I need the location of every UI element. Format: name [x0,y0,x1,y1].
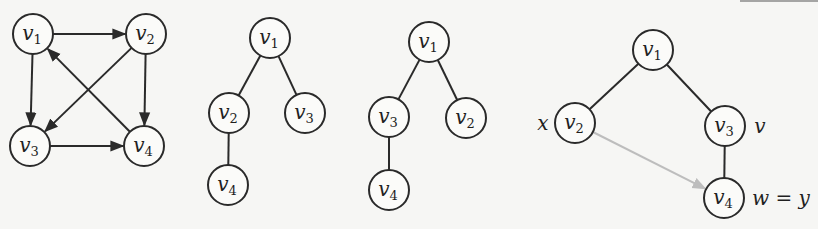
node-v2: v2 [209,93,249,133]
node-v4: v4 [124,126,164,166]
node-v4: v4 [369,170,409,210]
node-v4: v4 [704,178,744,218]
edge-v2-v4 [593,132,705,189]
edge-v1-v3 [279,56,297,95]
graph-canvas: v1v2v3v4v1v2v3v4v1v3v2v4v1v2v3v4 xvw = y [0,0,818,229]
node-v4: v4 [208,165,248,205]
edge-v1-v2 [438,60,457,100]
node-v2: v2 [126,14,166,54]
edge-v1-v3 [667,65,711,112]
node-v1: v1 [250,18,290,58]
node-v1: v1 [13,14,53,54]
node-v2: v2 [446,98,486,138]
node-v3: v3 [705,106,745,146]
node-v3: v3 [369,97,409,137]
node-v1: v1 [409,22,449,62]
nodes-layer: v1v2v3v4v1v2v3v4v1v3v2v4v1v2v3v4 [10,14,745,218]
edge-v1-v2 [590,64,639,110]
edge-v2-v4 [144,54,145,125]
annotation-label: v [754,114,766,138]
edge-v1-v3 [398,60,419,100]
node-v2: v2 [555,103,595,143]
edge-v1-v3 [31,54,33,125]
annotation-label: x [537,111,548,135]
node-v1: v1 [633,30,673,70]
dfs-tree-1-nodes: v1v2v3v4 [208,18,325,205]
edge-v1-v2 [239,56,261,96]
node-v3: v3 [285,93,325,133]
annotation-label: w = y [752,186,811,210]
node-v3: v3 [10,126,50,166]
dfs-tree-3-annotated-nodes: v1v2v3v4 [555,30,745,218]
dfs-tree-2-nodes: v1v3v2v4 [369,22,486,210]
directed-graph-edges [31,34,146,146]
